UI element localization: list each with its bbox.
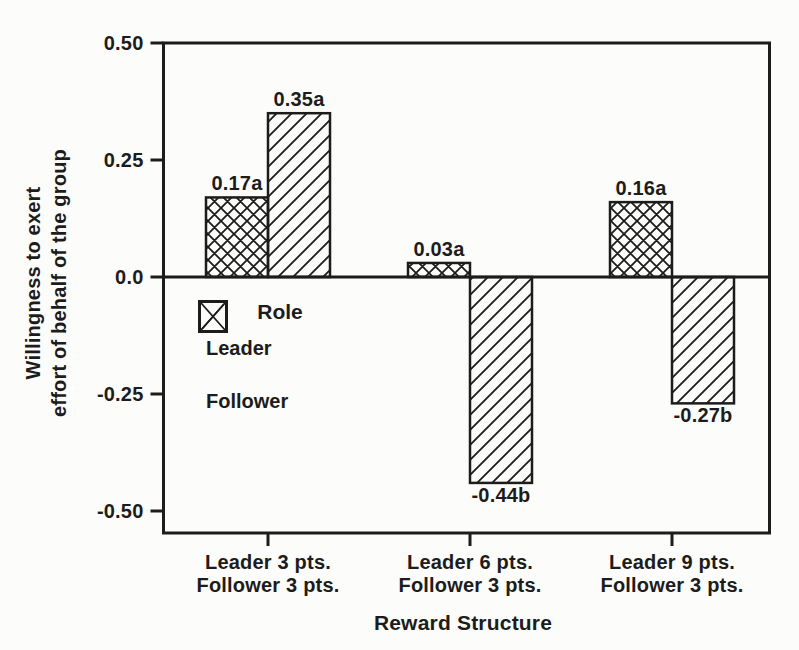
bar-follower-1	[268, 113, 330, 277]
y-axis-title-line1: Willingness to exert	[20, 149, 46, 417]
x-category-label-0-line1: Leader 3 pts.	[205, 551, 331, 573]
x-category-label-1-line1: Leader 6 pts.	[407, 551, 533, 573]
bar-leader-1	[206, 197, 268, 277]
x-category-label-2-line2: Follower 3 pts.	[600, 574, 743, 596]
bar-follower-2	[470, 277, 532, 483]
y-tick-label-2: 0.0	[115, 266, 143, 288]
bar-chart-svg: 0.17a0.03a0.16a0.35a-0.44b-0.27b0.500.25…	[0, 0, 799, 650]
bar-leader-3	[610, 202, 672, 277]
x-axis-title: Reward Structure	[163, 611, 763, 635]
y-axis-title-line2: effort of behalf of the group	[46, 149, 72, 417]
bar-value-label-follower-2: -0.44b	[471, 484, 530, 506]
bar-follower-3	[672, 277, 734, 403]
y-tick-label-0: 0.50	[104, 32, 144, 54]
x-category-label-0-line2: Follower 3 pts.	[196, 574, 339, 596]
legend-item-leader: Leader	[206, 332, 358, 365]
bar-value-label-follower-3: -0.27b	[673, 404, 732, 426]
figure-canvas: 0.17a0.03a0.16a0.35a-0.44b-0.27b0.500.25…	[0, 0, 799, 650]
legend-item-follower: Follower	[206, 385, 358, 418]
bar-value-label-follower-1: 0.35a	[273, 88, 325, 110]
y-tick-label-3: -0.25	[97, 383, 144, 405]
y-tick-label-4: -0.50	[97, 500, 144, 522]
diagonal-swatch-icon	[198, 300, 228, 333]
bar-leader-2	[408, 263, 470, 277]
legend-title: Role	[240, 300, 320, 324]
bar-value-label-leader-3: 0.16a	[615, 177, 667, 199]
y-tick-label-1: 0.25	[104, 149, 144, 171]
legend: Role Leader Follower	[198, 300, 358, 438]
bar-value-label-leader-1: 0.17a	[211, 172, 263, 194]
y-axis-title: Willingness to exert effort of behalf of…	[20, 149, 72, 417]
legend-label-leader: Leader	[206, 337, 272, 360]
legend-label-follower: Follower	[206, 390, 288, 413]
x-category-label-2-line1: Leader 9 pts.	[609, 551, 735, 573]
bar-value-label-leader-2: 0.03a	[413, 238, 465, 260]
x-category-label-1-line2: Follower 3 pts.	[398, 574, 541, 596]
